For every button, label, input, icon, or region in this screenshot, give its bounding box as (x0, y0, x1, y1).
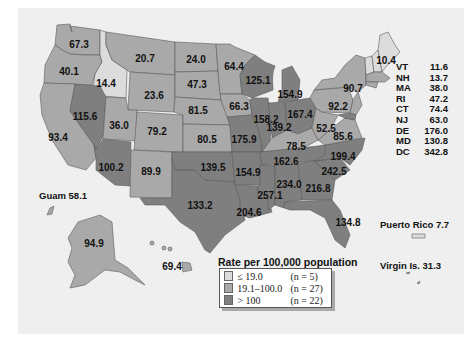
label-az: 100.2 (98, 162, 123, 173)
state-hi (182, 262, 192, 272)
label-ca: 93.4 (48, 132, 68, 143)
label-puerto-rico: Puerto Rico 7.7 (380, 219, 449, 230)
legend-swatch-high (224, 295, 233, 305)
label-ak: 94.9 (84, 238, 104, 249)
label-nm: 89.9 (141, 166, 161, 177)
label-ok: 139.5 (200, 162, 225, 173)
label-guam: Guam 58.1 (39, 190, 87, 201)
label-me: 10.4 (376, 55, 396, 66)
label-pa: 92.2 (328, 101, 348, 112)
label-mi: 154.9 (277, 89, 302, 100)
territory-virgin-islands (417, 281, 420, 284)
label-ga: 216.8 (305, 183, 330, 194)
northeast-values-table: VT11.6 NH13.7 MA38.0 RI47.2 CT74.4 NJ63.… (396, 62, 448, 157)
label-id: 14.4 (96, 78, 116, 89)
label-ne: 81.5 (188, 105, 208, 116)
ne-row-nj: NJ63.0 (396, 115, 448, 126)
label-in: 139.2 (266, 122, 291, 133)
label-ny: 90.7 (343, 83, 363, 94)
legend-item-high: > 100 (n = 22) (224, 294, 327, 306)
legend-item-mid: 19.1–100.0 (n = 27) (224, 282, 327, 294)
legend-swatch-mid (224, 283, 233, 293)
label-fl: 134.8 (335, 217, 360, 228)
legend-swatch-low (224, 271, 233, 281)
label-wi: 125.1 (245, 75, 270, 86)
label-co: 79.2 (147, 126, 167, 137)
hi-island (150, 241, 154, 245)
label-nv: 115.6 (73, 111, 98, 122)
label-ar: 154.9 (235, 167, 260, 178)
label-tx: 133.2 (187, 200, 212, 211)
label-sd: 47.3 (187, 79, 207, 90)
territory-virgin-islands (406, 272, 410, 274)
label-ky: 78.5 (286, 141, 306, 152)
label-virgin-islands: Virgin Is. 31.3 (380, 260, 441, 271)
label-mo: 175.9 (231, 134, 256, 145)
state-ak (68, 215, 145, 288)
hi-island (168, 247, 172, 251)
label-sc: 242.5 (321, 166, 346, 177)
label-va: 85.6 (333, 131, 353, 142)
label-al: 234.0 (276, 179, 301, 190)
territory-puerto-rico (412, 234, 425, 238)
legend-item-low: ≤ 19.0 (n = 5) (224, 270, 327, 282)
label-wv: 52.5 (316, 123, 336, 134)
label-la: 204.6 (236, 207, 261, 218)
label-ut: 36.0 (109, 120, 129, 131)
hi-island (162, 246, 166, 250)
label-ms: 257.1 (257, 190, 282, 201)
ne-row-vt: VT11.6 (396, 62, 448, 73)
label-nc: 199.4 (330, 151, 355, 162)
label-ks: 80.5 (197, 134, 217, 145)
label-wy: 23.6 (144, 90, 164, 101)
state-ct (366, 82, 378, 88)
state-ma (366, 72, 390, 82)
label-oh: 167.4 (287, 109, 312, 120)
label-wa: 67.3 (69, 39, 89, 50)
label-mt: 20.7 (135, 53, 155, 64)
territory-guam (47, 206, 54, 215)
label-hi: 69.4 (162, 261, 182, 272)
label-tn: 162.6 (273, 156, 298, 167)
legend-title: Rate per 100,000 population (218, 256, 357, 268)
label-mn: 64.4 (224, 61, 244, 72)
label-or: 40.1 (59, 66, 79, 77)
legend: ≤ 19.0 (n = 5) 19.1–100.0 (n = 27) > 100… (219, 268, 332, 308)
ne-row-dc: DC342.8 (396, 147, 448, 158)
label-nd: 24.0 (186, 54, 206, 65)
label-ia: 66.3 (229, 101, 249, 112)
